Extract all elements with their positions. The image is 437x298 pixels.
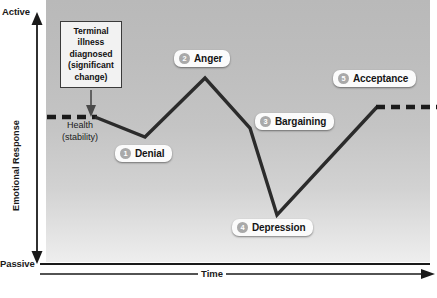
stage-text-4: Depression <box>252 222 305 233</box>
event-annotation-box: Terminal illness diagnosed (significant … <box>60 21 122 88</box>
stage-text-3: Bargaining <box>275 116 326 127</box>
stage-text-1: Denial <box>135 148 164 159</box>
health-label-line-2: (stability) <box>50 132 110 144</box>
stage-label-denial: 1 Denial <box>115 145 172 162</box>
stage-label-acceptance: 5 Acceptance <box>333 70 416 87</box>
stage-text-2: Anger <box>194 53 222 64</box>
event-line-1: Terminal <box>63 26 119 37</box>
grief-curve-chart: Active Passive Emotional Response Time T… <box>0 0 437 298</box>
event-line-2: illness <box>63 37 119 48</box>
health-baseline-label: Health (stability) <box>50 120 110 143</box>
stage-label-anger: 2 Anger <box>174 50 230 67</box>
stage-badge-1: 1 <box>120 148 131 159</box>
stage-badge-2: 2 <box>179 53 190 64</box>
event-line-5: change) <box>63 72 119 83</box>
health-label-line-1: Health <box>50 120 110 132</box>
stage-badge-3: 3 <box>260 116 271 127</box>
stage-label-depression: 4 Depression <box>232 219 313 236</box>
stage-badge-4: 4 <box>237 222 248 233</box>
event-line-3: diagnosed <box>63 49 119 60</box>
event-line-4: (significant <box>63 60 119 71</box>
stage-label-bargaining: 3 Bargaining <box>255 113 334 130</box>
stage-badge-5: 5 <box>338 73 349 84</box>
stage-text-5: Acceptance <box>353 73 408 84</box>
